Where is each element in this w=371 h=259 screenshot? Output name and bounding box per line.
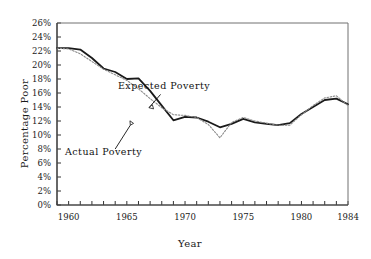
expected-poverty-arrowhead <box>149 105 154 109</box>
y-axis-tick-label: 18% <box>32 74 51 84</box>
x-axis-tick-label: 1980 <box>291 212 313 222</box>
x-axis-tick-label: 1965 <box>116 212 138 222</box>
y-axis-tick-label: 14% <box>32 102 51 112</box>
data-series-group <box>57 48 348 138</box>
plot-frame <box>57 23 348 205</box>
y-axis-tick-label: 0% <box>38 200 52 210</box>
y-axis-tick-label: 22% <box>32 46 51 56</box>
y-axis-tick-label: 16% <box>32 88 51 98</box>
chart-canvas: 0%2%4%6%8%10%12%14%16%18%20%22%24%26% 19… <box>0 0 371 259</box>
x-axis-tick-group: 196019651970197519801984 <box>57 201 359 222</box>
expected-poverty-line <box>57 48 348 138</box>
x-axis-tick-label: 1960 <box>58 212 80 222</box>
y-axis-title: Percentage Poor <box>19 64 30 184</box>
y-axis-tick-label: 10% <box>32 130 51 140</box>
x-axis-title: Year <box>178 238 202 249</box>
y-axis-tick-label: 2% <box>38 186 52 196</box>
x-axis-tick-label: 1970 <box>174 212 196 222</box>
actual-poverty-arrowhead <box>130 121 134 125</box>
y-axis-tick-label: 8% <box>38 144 52 154</box>
poverty-line-chart: 0%2%4%6%8%10%12%14%16%18%20%22%24%26% 19… <box>0 0 371 259</box>
y-axis-tick-label: 20% <box>32 60 51 70</box>
y-axis-tick-label: 4% <box>38 172 52 182</box>
y-axis-tick-label: 26% <box>32 18 51 28</box>
x-axis-tick-label: 1975 <box>232 212 254 222</box>
x-axis-tick-label: 1984 <box>337 212 359 222</box>
y-axis-tick-label: 12% <box>32 116 51 126</box>
annotation-group: Expected PovertyActual Poverty <box>64 80 210 157</box>
expected-poverty-label: Expected Poverty <box>118 80 210 91</box>
y-axis-tick-label: 6% <box>38 158 52 168</box>
y-axis-tick-label: 24% <box>32 32 51 42</box>
actual-poverty-label: Actual Poverty <box>64 146 142 157</box>
